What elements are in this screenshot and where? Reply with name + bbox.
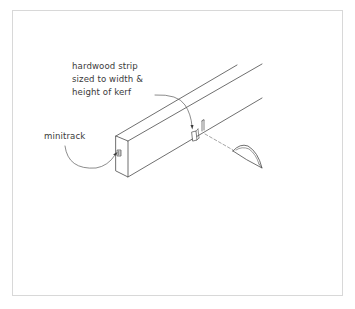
minitrack-leader — [65, 146, 118, 168]
minitrack-callout-line-1: minitrack — [44, 131, 85, 141]
hardwood-strip-leader — [155, 95, 194, 130]
projection-dashed-line — [205, 134, 233, 150]
sled-runner-diagram — [0, 0, 355, 309]
hardwood-strip-callout: hardwood strip sized to width & height o… — [72, 60, 143, 99]
hardwood-strip-part — [192, 119, 204, 141]
hardwood-strip-callout-line-1: hardwood strip — [72, 60, 143, 73]
minitrack-part — [118, 150, 122, 156]
hardwood-strip-callout-line-3: height of kerf — [72, 86, 143, 99]
hardwood-strip-callout-line-2: sized to width & — [72, 73, 143, 86]
saw-blade-segment — [233, 145, 262, 168]
minitrack-callout: minitrack — [44, 130, 85, 143]
